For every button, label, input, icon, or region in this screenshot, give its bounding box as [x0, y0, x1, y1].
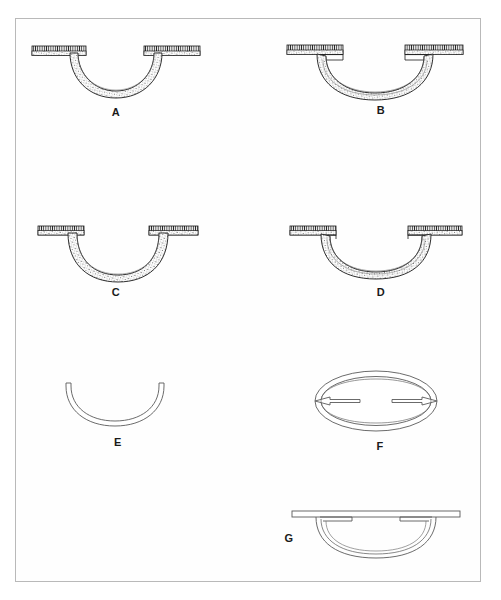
figure-d-drawing	[288, 222, 464, 284]
rim-left	[287, 45, 343, 55]
figure-label-e: E	[108, 436, 128, 448]
illustration-plate: A	[0, 0, 501, 600]
bowl-mid-arc	[321, 519, 431, 554]
figure-c-drawing	[36, 222, 200, 286]
bowl-inner-arc	[326, 521, 426, 551]
figure-label-g: G	[279, 532, 299, 544]
figure-g	[290, 506, 466, 566]
bowl-wall	[321, 234, 431, 279]
figure-label-f: F	[370, 440, 390, 452]
figure-a	[30, 42, 202, 108]
rim-left	[290, 226, 336, 235]
figure-b	[285, 42, 467, 106]
bowl-wall	[70, 53, 162, 98]
lug-tab-left	[320, 517, 352, 521]
figure-g-drawing	[290, 506, 466, 566]
figure-f-drawing	[313, 368, 439, 434]
bowl-wall	[317, 54, 433, 100]
rim-bar	[292, 511, 460, 517]
rim-right	[144, 46, 200, 56]
figure-f	[313, 368, 439, 434]
figure-a-drawing	[30, 42, 202, 108]
figure-label-c: C	[106, 286, 126, 298]
rim-right	[149, 226, 198, 235]
bowl-outline	[66, 383, 164, 426]
figure-label-b: B	[371, 104, 391, 116]
bowl-outer-arc	[316, 517, 436, 558]
figure-d	[288, 222, 464, 284]
figure-c	[36, 222, 200, 286]
figure-label-d: D	[371, 286, 391, 298]
lug-tab-right	[400, 517, 432, 521]
rim-right	[408, 226, 462, 235]
figure-e	[62, 380, 170, 432]
figure-b-drawing	[285, 42, 467, 106]
figure-label-a: A	[106, 106, 126, 118]
rim-right	[405, 45, 463, 55]
figure-e-drawing	[62, 380, 170, 432]
